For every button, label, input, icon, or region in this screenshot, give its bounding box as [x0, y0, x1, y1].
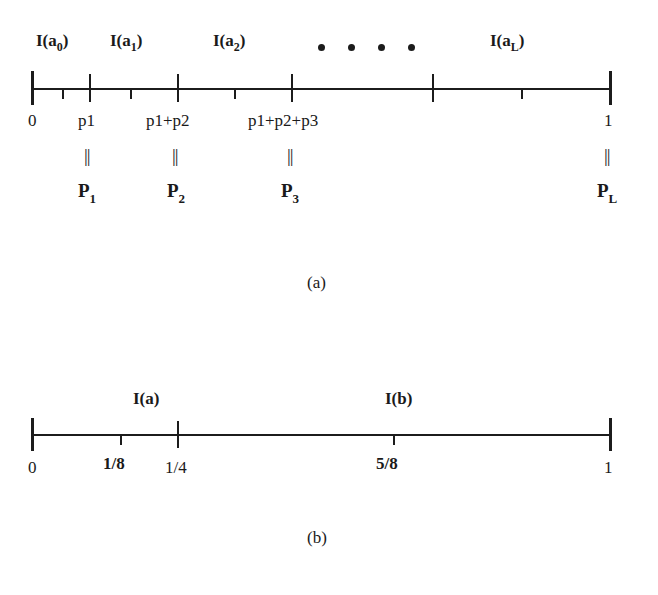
axis-tick-major-0 — [31, 418, 34, 451]
interval-label-a2-close: ) — [240, 31, 246, 50]
ellipsis-dot — [378, 44, 385, 51]
caption-b: (b) — [307, 529, 327, 546]
interval-label-b: I(b) — [385, 390, 412, 407]
axis-tick-major-1 — [609, 418, 612, 451]
axis-label-0: 0 — [28, 112, 37, 129]
ellipsis-dot — [408, 44, 415, 51]
axis-tick-minor — [62, 89, 64, 99]
equals-bar-4: || — [604, 146, 610, 165]
interval-label-aL-sub: L — [511, 40, 519, 54]
interval-label-a2-sub: 2 — [234, 40, 240, 54]
interval-label-aL-base: I(a — [490, 31, 511, 50]
axis-tick-minor-18 — [120, 435, 122, 445]
axis-label-14: 1/4 — [165, 459, 187, 476]
cumulative-label-P2-sub: 2 — [179, 191, 186, 206]
interval-label-a0: I(a0) — [36, 32, 68, 49]
cumulative-label-PL-base: P — [597, 180, 609, 201]
axis-tick-major-p2 — [177, 74, 179, 102]
axis-label-p1: p1 — [78, 112, 95, 129]
axis-tick-minor — [521, 89, 523, 99]
axis-tick-major-pl — [432, 74, 434, 102]
interval-label-a0-base: I(a — [36, 31, 57, 50]
axis-label-p1p2: p1+p2 — [146, 112, 190, 129]
figure-root: I(a0) I(a1) I(a2) I(aL) 0 p1 — [0, 0, 658, 595]
interval-label-a0-close: ) — [63, 31, 69, 50]
axis-label-p1p2p3: p1+p2+p3 — [248, 112, 318, 129]
axis-label-1: 1 — [604, 112, 613, 129]
number-line-b — [31, 434, 612, 436]
axis-label-18: 1/8 — [103, 455, 125, 472]
cumulative-label-P2: P2 — [167, 181, 185, 200]
interval-label-aL: I(aL) — [490, 32, 524, 49]
interval-label-a1: I(a1) — [110, 32, 142, 49]
cumulative-label-P3-base: P — [281, 180, 293, 201]
number-line-a — [31, 88, 612, 90]
axis-tick-major-14 — [177, 421, 179, 448]
cumulative-label-PL: PL — [597, 181, 617, 200]
interval-label-a2-base: I(a — [213, 31, 234, 50]
cumulative-label-P3: P3 — [281, 181, 299, 200]
axis-tick-major-1 — [609, 71, 612, 105]
axis-label-0: 0 — [28, 459, 37, 476]
cumulative-label-P3-sub: 3 — [293, 191, 300, 206]
equals-bar-2: || — [172, 146, 178, 165]
axis-tick-minor-58 — [393, 435, 395, 445]
axis-tick-minor — [234, 89, 236, 99]
interval-label-a2: I(a2) — [213, 32, 245, 49]
interval-label-aL-close: ) — [519, 31, 525, 50]
cumulative-label-P1-base: P — [78, 180, 90, 201]
interval-label-a1-sub: 1 — [131, 40, 137, 54]
cumulative-label-P2-base: P — [167, 180, 179, 201]
interval-label-a1-base: I(a — [110, 31, 131, 50]
axis-label-1: 1 — [604, 459, 613, 476]
axis-tick-major-0 — [31, 71, 34, 105]
equals-bar-1: || — [84, 146, 90, 165]
interval-label-a: I(a) — [133, 390, 159, 407]
ellipsis-dot — [318, 44, 325, 51]
axis-tick-major-p3 — [291, 74, 293, 102]
axis-label-58: 5/8 — [376, 455, 398, 472]
interval-label-a0-sub: 0 — [57, 40, 63, 54]
interval-label-a1-close: ) — [137, 31, 143, 50]
cumulative-label-P1-sub: 1 — [90, 191, 97, 206]
cumulative-label-PL-sub: L — [609, 191, 618, 206]
axis-tick-major-p1 — [89, 74, 91, 102]
ellipsis-dot — [348, 44, 355, 51]
cumulative-label-P1: P1 — [78, 181, 96, 200]
equals-bar-3: || — [287, 146, 293, 165]
axis-tick-minor — [130, 89, 132, 99]
caption-a: (a) — [307, 274, 326, 291]
